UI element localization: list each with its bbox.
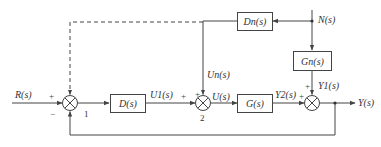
label-y: Y(s): [358, 98, 374, 108]
label-sum2-number: 2: [200, 114, 205, 123]
sign-sum2-un: +: [195, 90, 200, 99]
block-gn: Gn(s): [293, 51, 332, 71]
label-y2: Y2(s): [275, 90, 296, 100]
sum-junction-3: [305, 96, 320, 111]
label-u: U(s): [212, 92, 230, 102]
dn-to-sum2-line: [203, 21, 237, 95]
block-d: D(s): [110, 94, 146, 113]
sum-junction-1: [63, 96, 78, 111]
n-junction-dot: [310, 19, 313, 22]
label-n: N(s): [318, 15, 335, 25]
label-sum1-number: 1: [84, 110, 89, 119]
block-g: G(s): [237, 94, 273, 113]
output-junction-dot: [333, 101, 336, 104]
block-dn: Dn(s): [237, 12, 273, 31]
sign-sum1-feedback: −: [50, 110, 55, 119]
label-u1: U1(s): [150, 90, 173, 100]
label-y1: Y1(s): [318, 81, 339, 91]
sign-sum1-input: +: [49, 92, 54, 101]
sign-sum2-u1: +: [181, 92, 186, 101]
dashed-feedforward-line: [70, 22, 203, 95]
label-r: R(s): [15, 90, 32, 100]
label-un: Un(s): [207, 70, 230, 80]
sign-sum3-y1: +: [305, 82, 310, 91]
sign-sum3-y2: +: [299, 92, 304, 101]
